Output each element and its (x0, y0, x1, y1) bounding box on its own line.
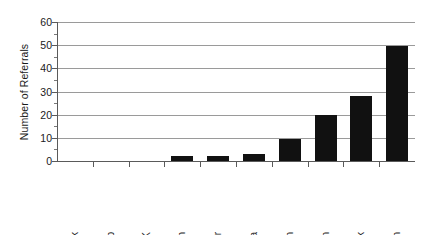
x-axis-tick (379, 162, 380, 167)
x-axis-tick-label: DK (140, 232, 154, 235)
x-axis-tick-label: Ob itm (175, 232, 189, 235)
y-axis-tick-label: 30 (2, 87, 52, 97)
bar (350, 96, 372, 161)
y-axis-tick-labels: 0102030405060 (0, 22, 52, 161)
x-axis-tick (343, 162, 344, 167)
x-axis-tick-labels: Avoid wrkAvoid pDKOb itmOtherAvoid aOb a… (57, 168, 415, 234)
x-axis-tick (308, 162, 309, 167)
y-axis-tick-label: 40 (2, 63, 52, 73)
x-axis-tick (164, 162, 165, 167)
x-axis-tick-label: Ob a attn (283, 232, 297, 235)
bar (171, 156, 193, 161)
bar (315, 115, 337, 161)
x-axis-ticks (57, 162, 415, 167)
x-axis-tick-label: Unknown (319, 232, 333, 235)
bar-chart-figure: Number of Referrals 0102030405060 Avoid … (0, 0, 422, 235)
x-axis-tick (236, 162, 237, 167)
x-axis-tick (200, 162, 201, 167)
bar (386, 46, 408, 161)
y-axis-tick-label: 0 (2, 156, 52, 166)
x-axis-tick-label: Ob p attn (390, 232, 404, 235)
bar (279, 139, 301, 161)
y-axis-tick-label: 50 (2, 40, 52, 50)
x-axis-tick (93, 162, 94, 167)
y-axis-tick-label: 60 (2, 17, 52, 27)
bar (207, 156, 229, 161)
x-axis-tick-label: Other (211, 232, 225, 235)
x-axis-tick-label: Avoid a (247, 232, 261, 235)
x-axis-tick-label: Avoid p (104, 232, 118, 235)
bars-layer (57, 22, 415, 161)
x-axis-tick (272, 162, 273, 167)
y-axis-tick-label: 10 (2, 133, 52, 143)
bar (243, 154, 265, 161)
y-axis-tick-label: 20 (2, 110, 52, 120)
x-axis-tick-label: Avoid wrk (68, 232, 82, 235)
x-axis-tick-label: Avoid task (354, 232, 368, 235)
x-axis-tick (129, 162, 130, 167)
